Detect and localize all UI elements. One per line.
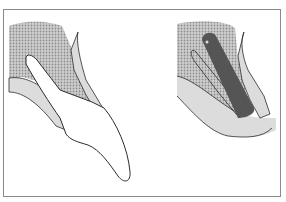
dental-diagram <box>0 0 286 202</box>
post-hole <box>206 41 209 44</box>
left-panel-natural-tooth <box>9 22 130 181</box>
right-panel-implant-post <box>177 21 276 137</box>
